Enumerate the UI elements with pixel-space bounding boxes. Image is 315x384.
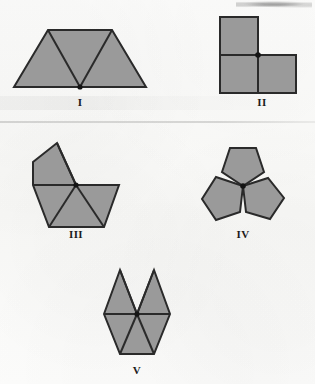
figure-5-label: V bbox=[133, 364, 141, 376]
figure-sheet: I II III IV V bbox=[0, 0, 315, 384]
figure-5-graphic bbox=[0, 0, 315, 384]
figure-5-vertex-dot bbox=[134, 311, 139, 316]
